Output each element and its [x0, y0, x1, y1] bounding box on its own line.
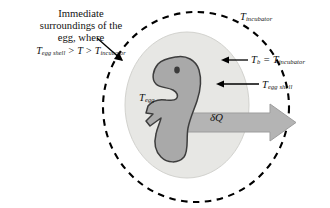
ineq-sub2: incubator [100, 49, 125, 56]
embryo-eye-icon [174, 67, 180, 74]
label-t-incubator: Tincubator [240, 11, 272, 23]
t-b-subscript2: incubator [279, 58, 305, 65]
t-egg-shell-subscript: egg shell [268, 83, 292, 90]
label-heat-flux: δQ [210, 111, 223, 123]
surroundings-line-1: Immediate [58, 8, 103, 19]
t-egg-subscript: egg [145, 96, 155, 103]
t-incubator-subscript: incubator [246, 15, 272, 22]
label-t-egg-shell: Tegg shell [262, 79, 292, 91]
surroundings-line-2: surroundings of the [40, 20, 122, 31]
surroundings-inequality: Tegg shell > T > Tincubator [6, 45, 156, 56]
ineq-sub1: egg shell [42, 49, 66, 56]
label-t-b: Tb = Tincubator [251, 54, 305, 66]
surroundings-line-3: egg, where [58, 32, 104, 43]
ineq-mid: > T > [65, 45, 94, 56]
label-immediate-surroundings: Immediate surroundings of the egg, where… [6, 8, 156, 56]
t-b-equals: = [260, 54, 272, 65]
figure-canvas: Immediate surroundings of the egg, where… [0, 0, 330, 208]
label-t-egg: Tegg [139, 92, 155, 104]
